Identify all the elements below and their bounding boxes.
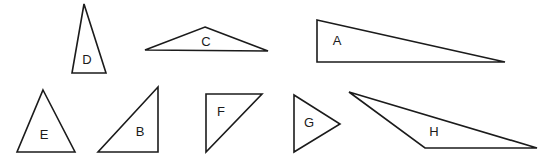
triangle-label-G: G (304, 115, 314, 130)
triangle-group-B: B (98, 87, 158, 152)
triangle-label-F: F (217, 104, 225, 119)
triangle-A (317, 20, 505, 62)
triangle-label-D: D (82, 52, 91, 67)
triangle-group-F: F (206, 94, 262, 152)
triangle-group-E: E (17, 90, 75, 152)
triangle-F (206, 94, 262, 152)
triangle-group-H: H (349, 92, 537, 148)
triangle-group-C: C (145, 27, 268, 51)
triangle-label-E: E (40, 127, 49, 142)
triangle-label-C: C (201, 34, 210, 49)
triangle-group-A: A (317, 20, 505, 62)
triangle-label-A: A (333, 33, 342, 48)
triangles-canvas: D C A E B F G H (0, 0, 545, 156)
triangles-figure: D C A E B F G H (0, 0, 545, 156)
triangle-E (17, 90, 75, 152)
triangle-group-G: G (294, 95, 340, 152)
triangle-G (294, 95, 340, 152)
triangle-B (98, 87, 158, 152)
triangle-label-B: B (136, 124, 145, 139)
triangle-group-D: D (72, 4, 106, 73)
triangle-label-H: H (429, 124, 438, 139)
triangle-H (349, 92, 537, 148)
